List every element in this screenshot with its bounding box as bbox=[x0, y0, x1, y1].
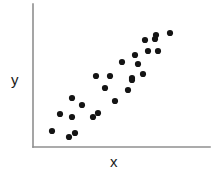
data-point bbox=[153, 32, 159, 38]
x-axis-label: x bbox=[110, 154, 118, 169]
data-point bbox=[93, 73, 99, 79]
data-point bbox=[125, 87, 131, 93]
axes bbox=[33, 4, 210, 147]
data-point bbox=[79, 102, 85, 108]
data-point bbox=[155, 48, 161, 54]
data-point bbox=[119, 59, 125, 65]
data-point bbox=[69, 114, 75, 120]
data-point bbox=[102, 85, 108, 91]
data-point bbox=[49, 128, 55, 134]
data-point bbox=[57, 111, 63, 117]
data-point bbox=[140, 71, 146, 77]
data-point bbox=[112, 98, 118, 104]
data-point bbox=[95, 110, 101, 116]
data-point bbox=[145, 48, 151, 54]
y-axis-label: y bbox=[11, 72, 19, 87]
data-point bbox=[72, 130, 78, 136]
data-points-group bbox=[49, 30, 173, 140]
data-point bbox=[129, 77, 135, 83]
plot-canvas bbox=[0, 0, 215, 176]
data-point bbox=[132, 52, 138, 58]
data-point bbox=[135, 61, 141, 67]
data-point bbox=[167, 30, 173, 36]
data-point bbox=[90, 114, 96, 120]
scatter-plot-figure: y x bbox=[0, 0, 215, 176]
data-point bbox=[107, 73, 113, 79]
data-point bbox=[142, 37, 148, 43]
data-point bbox=[66, 134, 72, 140]
data-point bbox=[69, 95, 75, 101]
